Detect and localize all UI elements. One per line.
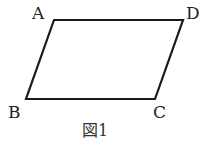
vertex-label-c: C bbox=[153, 102, 166, 122]
vertex-label-a: A bbox=[31, 3, 45, 23]
figure-caption: 図1 bbox=[82, 121, 108, 140]
vertex-label-b: B bbox=[8, 102, 21, 122]
vertex-label-d: D bbox=[186, 3, 200, 23]
parallelogram-abcd bbox=[26, 20, 183, 99]
parallelogram-diagram: A D B C 図1 bbox=[0, 0, 203, 160]
